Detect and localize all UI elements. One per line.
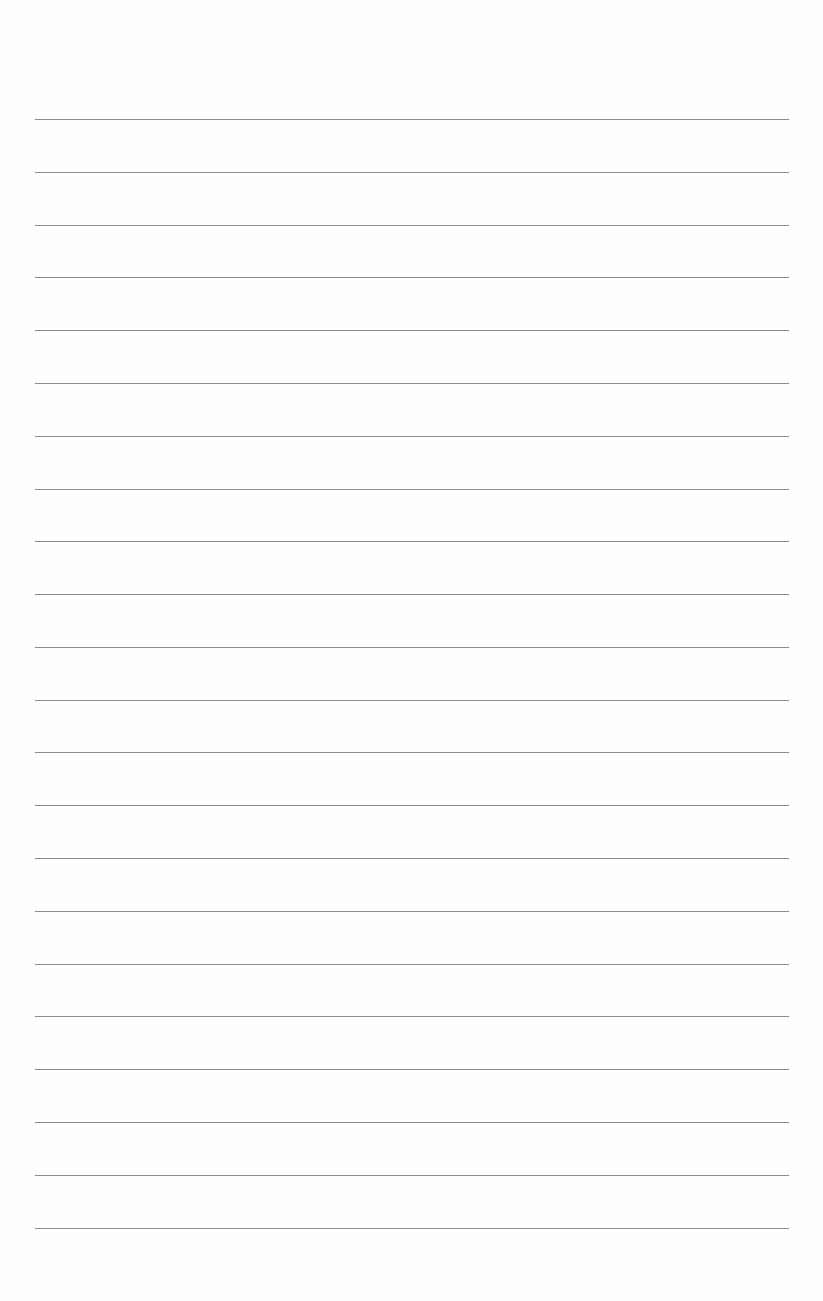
- ruled-line: [35, 1069, 789, 1070]
- ruled-line: [35, 330, 789, 331]
- ruled-line: [35, 1016, 789, 1017]
- ruled-line: [35, 489, 789, 490]
- ruled-line: [35, 647, 789, 648]
- ruled-line: [35, 277, 789, 278]
- ruled-line: [35, 752, 789, 753]
- ruled-line: [35, 964, 789, 965]
- lined-page: [0, 0, 823, 1301]
- ruled-line: [35, 383, 789, 384]
- ruled-line: [35, 225, 789, 226]
- ruled-line: [35, 1175, 789, 1176]
- ruled-line: [35, 858, 789, 859]
- ruled-line: [35, 172, 789, 173]
- ruled-line: [35, 594, 789, 595]
- ruled-line: [35, 1228, 789, 1229]
- ruled-line: [35, 1122, 789, 1123]
- ruled-line: [35, 911, 789, 912]
- ruled-line: [35, 805, 789, 806]
- ruled-line: [35, 541, 789, 542]
- ruled-line: [35, 436, 789, 437]
- ruled-line: [35, 119, 789, 120]
- ruled-line: [35, 700, 789, 701]
